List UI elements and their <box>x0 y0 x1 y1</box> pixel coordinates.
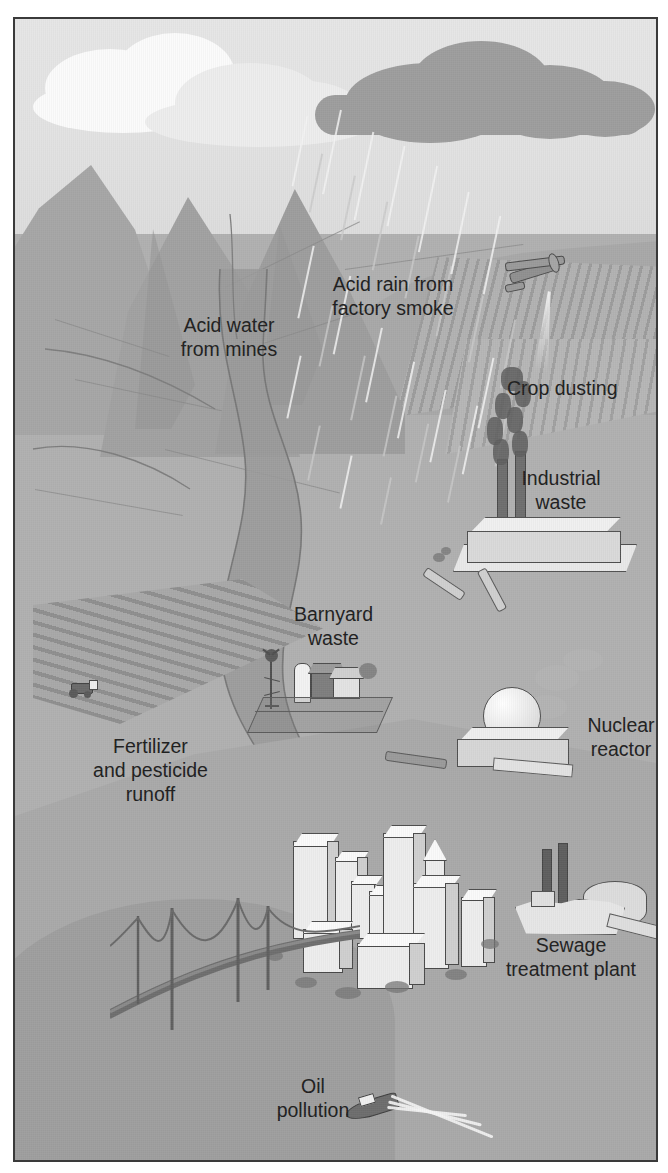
building-spire <box>423 839 447 861</box>
shrub-icon <box>445 969 467 980</box>
factory-smoke-icon <box>507 407 523 433</box>
label-nuclear-reactor: Nuclear reactor <box>566 713 658 761</box>
illustration-frame: Acid water from mines Acid rain from fac… <box>13 17 658 1162</box>
factory-smoke-icon <box>512 431 528 457</box>
building-side <box>445 883 459 965</box>
shrub-icon <box>441 547 451 555</box>
label-acid-water-from-mines: Acid water from mines <box>149 313 309 361</box>
reactor-steam-icon <box>563 649 603 671</box>
sewage-stack-icon <box>558 843 568 907</box>
label-fertilizer-and-pesticide-runoff: Fertilizer and pesticide runoff <box>63 734 238 806</box>
building-side <box>409 943 425 985</box>
sewage-plant-block <box>531 891 555 907</box>
tree-icon <box>359 663 377 679</box>
building <box>383 833 417 941</box>
suspension-bridge <box>110 884 360 1064</box>
label-industrial-waste: Industrial waste <box>496 466 626 514</box>
figure-page: Acid water from mines Acid rain from fac… <box>0 0 668 1173</box>
tractor-icon <box>67 679 97 699</box>
barnyard-fence <box>247 697 393 733</box>
barnyard-fence-rail <box>255 711 384 712</box>
factory-smoke-icon <box>487 417 503 445</box>
label-acid-rain-from-factory-smoke: Acid rain from factory smoke <box>298 272 488 320</box>
illustration-scene: Acid water from mines Acid rain from fac… <box>15 19 656 1160</box>
label-sewage-treatment-plant: Sewage treatment plant <box>476 933 658 981</box>
factory-building <box>467 531 621 563</box>
label-oil-pollution: Oil pollution <box>253 1074 373 1122</box>
shrub-icon <box>385 981 409 993</box>
label-crop-dusting: Crop dusting <box>507 376 658 400</box>
label-barnyard-waste: Barnyard waste <box>266 602 401 650</box>
